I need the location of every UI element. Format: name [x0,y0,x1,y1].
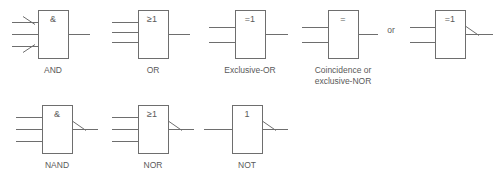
gate-caption-line1: NAND [45,160,69,170]
output-wire [168,122,194,131]
output-wire [465,27,493,36]
gate-caption-line1: NOT [238,160,256,170]
gate-qualifying-symbol: =1 [445,14,455,24]
gate-qualifying-symbol: =1 [245,14,255,24]
gate-caption-line2: exclusive-NOR [315,76,372,86]
gate-caption-line1: Coincidence or [315,65,372,75]
input-negation-slash [23,45,35,53]
gate-exclusive-nor-alt: =1 [410,11,493,59]
gate-qualifying-symbol: ≥1 [147,109,157,119]
gate-not: 1NOT [204,106,288,171]
gate-qualifying-symbol: = [340,14,345,24]
output-wire [262,122,288,131]
input-wire-1 [12,17,38,25]
gate-caption-line1: NOR [144,160,163,170]
gate-caption-line1: Exclusive-OR [224,65,275,75]
gate-caption-line1: AND [44,65,62,75]
gate-coincidence: =Coincidence orexclusive-NOR [302,11,378,87]
diagram-canvas: &AND≥1OR=1Exclusive-OR=Coincidence orexc… [0,0,500,178]
gates-layer: &AND≥1OR=1Exclusive-OR=Coincidence orexc… [12,11,493,171]
gate-qualifying-symbol: & [50,14,56,24]
gate-nor: ≥1NOR [112,106,194,171]
conjunction-or-label: or [387,25,395,35]
gate-nand: &NAND [16,106,98,171]
logic-gate-diagram: &AND≥1OR=1Exclusive-OR=Coincidence orexc… [0,0,500,178]
gate-qualifying-symbol: & [54,109,60,119]
input-wire-3 [12,45,38,53]
gate-qualifying-symbol: 1 [244,109,249,119]
output-wire [72,122,98,131]
gate-qualifying-symbol: ≥1 [147,14,157,24]
gate-and: &AND [12,11,90,76]
gate-caption-line1: OR [147,65,160,75]
gate-exclusive-or: =1Exclusive-OR [209,11,288,76]
gate-or: ≥1OR [112,11,190,76]
input-negation-slash [23,17,35,25]
